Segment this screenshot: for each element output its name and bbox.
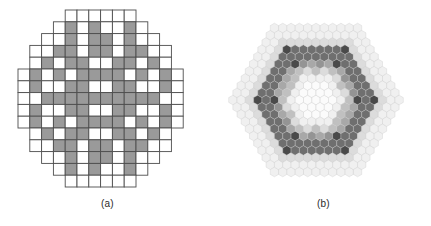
- grid-cell: [112, 57, 124, 69]
- grid-cell: [42, 81, 54, 93]
- grid-cell: [18, 81, 30, 93]
- grid-cell: [65, 152, 77, 164]
- grid-cell: [89, 175, 101, 187]
- grid-cell: [53, 116, 65, 128]
- grid-cell: [42, 57, 54, 69]
- grid-cell: [89, 81, 101, 93]
- grid-cell: [53, 45, 65, 57]
- grid-cell: [101, 34, 113, 46]
- grid-cell: [89, 10, 101, 22]
- grid-cell: [136, 22, 148, 34]
- grid-cell: [124, 57, 136, 69]
- grid-cell: [160, 45, 172, 57]
- grid-cell: [30, 69, 42, 81]
- grid-cell: [77, 45, 89, 57]
- grid-cell: [112, 175, 124, 187]
- grid-cell: [124, 116, 136, 128]
- grid-cell: [171, 69, 183, 81]
- grid-cell: [136, 116, 148, 128]
- grid-cell: [148, 57, 160, 69]
- grid-cell: [53, 140, 65, 152]
- grid-cell: [171, 116, 183, 128]
- grid-cell: [18, 69, 30, 81]
- grid-cell: [160, 104, 172, 116]
- grid-cell: [136, 128, 148, 140]
- grid-cell: [42, 104, 54, 116]
- grid-cell: [18, 93, 30, 105]
- grid-cell: [112, 128, 124, 140]
- grid-cell: [124, 81, 136, 93]
- grid-cell: [77, 104, 89, 116]
- grid-cell: [65, 69, 77, 81]
- grid-cell: [112, 152, 124, 164]
- grid-cell: [53, 152, 65, 164]
- grid-cell: [77, 10, 89, 22]
- grid-cell: [77, 163, 89, 175]
- grid-cell: [112, 140, 124, 152]
- grid-cell: [89, 140, 101, 152]
- grid-cell: [101, 175, 113, 187]
- grid-cell: [112, 116, 124, 128]
- grid-cell: [65, 140, 77, 152]
- grid-cell: [65, 10, 77, 22]
- grid-cell: [101, 116, 113, 128]
- grid-cell: [112, 10, 124, 22]
- grid-cell: [18, 116, 30, 128]
- grid-cell: [101, 45, 113, 57]
- grid-cell: [136, 93, 148, 105]
- grid-cell: [101, 22, 113, 34]
- figure-container: (a) (b): [0, 0, 431, 226]
- square-grid-disk-diagram: [0, 0, 215, 195]
- grid-cell: [112, 81, 124, 93]
- grid-cell: [77, 93, 89, 105]
- grid-cell: [77, 140, 89, 152]
- grid-cell: [160, 128, 172, 140]
- grid-cell: [160, 57, 172, 69]
- grid-cell: [136, 140, 148, 152]
- grid-cell: [77, 69, 89, 81]
- grid-cell: [53, 57, 65, 69]
- grid-cell: [136, 45, 148, 57]
- grid-cell: [65, 128, 77, 140]
- grid-cell: [124, 69, 136, 81]
- grid-cell: [42, 93, 54, 105]
- grid-cell: [42, 34, 54, 46]
- grid-cell: [101, 57, 113, 69]
- grid-cell: [160, 81, 172, 93]
- grid-cell: [124, 34, 136, 46]
- hexagonal-array-diagram: [216, 0, 431, 195]
- grid-cell: [42, 116, 54, 128]
- grid-cell: [89, 152, 101, 164]
- grid-cell: [101, 140, 113, 152]
- grid-cell: [30, 104, 42, 116]
- grid-cell: [89, 163, 101, 175]
- panel-b-caption: (b): [216, 198, 431, 209]
- grid-cell: [148, 81, 160, 93]
- grid-cell: [112, 45, 124, 57]
- grid-cell: [65, 22, 77, 34]
- grid-cell: [124, 175, 136, 187]
- grid-cell: [77, 57, 89, 69]
- grid-cell: [124, 152, 136, 164]
- grid-cell: [53, 93, 65, 105]
- grid-cell: [65, 93, 77, 105]
- grid-cell: [18, 104, 30, 116]
- grid-cell: [101, 104, 113, 116]
- grid-cell: [42, 128, 54, 140]
- grid-cell: [136, 104, 148, 116]
- grid-cell: [112, 104, 124, 116]
- grid-cell: [160, 116, 172, 128]
- grid-cell: [77, 22, 89, 34]
- grid-cell: [53, 34, 65, 46]
- grid-cell: [148, 69, 160, 81]
- grid-cell: [77, 128, 89, 140]
- grid-cell: [124, 104, 136, 116]
- grid-cell: [77, 34, 89, 46]
- grid-cell: [89, 116, 101, 128]
- grid-cell: [42, 152, 54, 164]
- grid-cell: [124, 45, 136, 57]
- grid-cell: [124, 22, 136, 34]
- grid-cell: [101, 128, 113, 140]
- grid-cell: [101, 152, 113, 164]
- grid-cell: [124, 93, 136, 105]
